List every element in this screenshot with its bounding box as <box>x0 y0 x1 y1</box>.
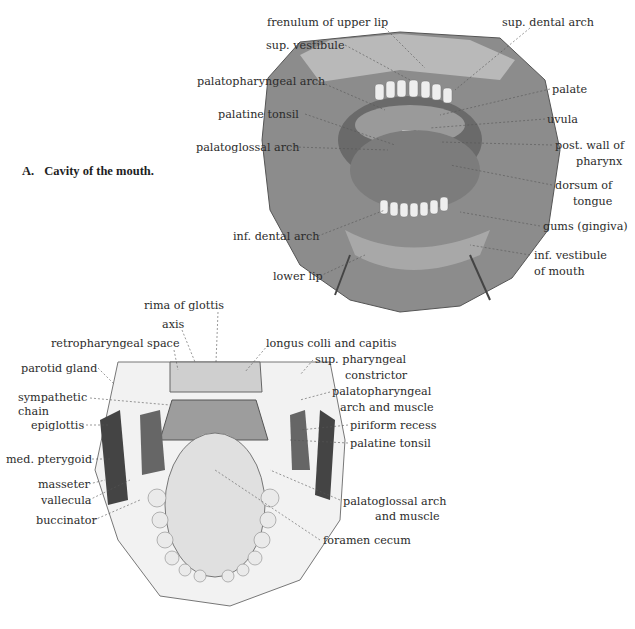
leader-lines <box>0 0 635 629</box>
